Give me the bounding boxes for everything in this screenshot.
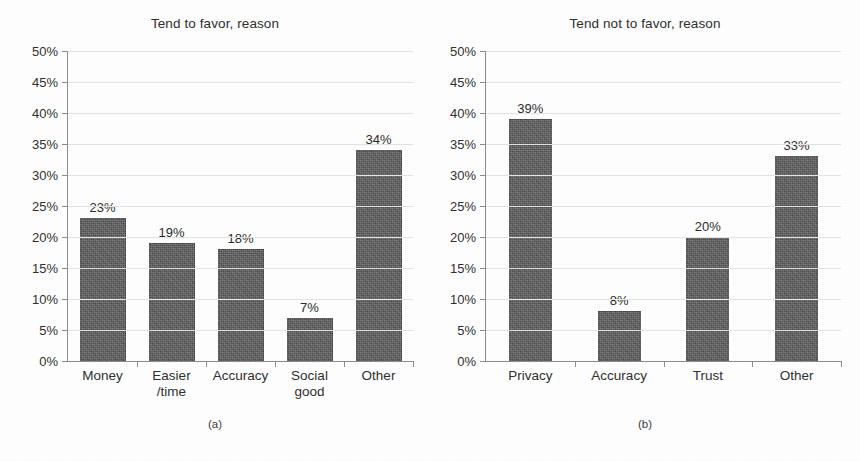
gridline <box>68 299 413 300</box>
x-axis-category-label: Privacy <box>486 368 575 384</box>
x-axis-tick <box>752 361 753 367</box>
x-axis-labels-b: PrivacyAccuracyTrustOther <box>486 368 841 384</box>
subcaption-a: (a) <box>0 418 430 430</box>
bar-value-label: 23% <box>89 200 115 215</box>
bar-value-label: 8% <box>610 293 629 308</box>
x-axis-category-label: Easier /time <box>137 368 206 400</box>
x-axis-tick <box>575 361 576 367</box>
gridline <box>486 299 841 300</box>
y-axis-tick <box>62 113 68 114</box>
y-axis-tick-label: 40% <box>450 106 476 121</box>
x-axis-category-label: Other <box>752 368 841 384</box>
gridline <box>68 330 413 331</box>
two-panel-bar-figure: Tend to favor, reason 23%19%18%7%34% 50%… <box>0 0 860 461</box>
y-axis-tick <box>62 299 68 300</box>
y-axis-tick-label: 40% <box>32 106 58 121</box>
y-axis-tick-label: 15% <box>450 261 476 276</box>
y-axis-tick <box>480 330 486 331</box>
y-axis-tick <box>480 237 486 238</box>
y-axis-tick <box>62 268 68 269</box>
bar <box>149 243 195 361</box>
gridline <box>68 51 413 52</box>
gridline <box>486 268 841 269</box>
gridline <box>486 206 841 207</box>
bar-value-label: 20% <box>695 219 721 234</box>
x-axis-tick <box>841 361 842 367</box>
y-axis-tick-label: 50% <box>450 44 476 59</box>
y-axis-tick <box>480 175 486 176</box>
y-axis-tick <box>62 175 68 176</box>
bar <box>80 218 126 361</box>
chart-panel-a: Tend to favor, reason 23%19%18%7%34% 50%… <box>0 0 430 461</box>
y-axis-tick-label: 30% <box>450 168 476 183</box>
x-axis-category-label: Trust <box>664 368 753 384</box>
gridline <box>486 113 841 114</box>
y-axis-tick <box>480 361 486 362</box>
y-axis-tick <box>62 237 68 238</box>
y-axis-tick <box>62 206 68 207</box>
y-axis-tick-label: 5% <box>39 323 58 338</box>
y-axis-tick <box>62 51 68 52</box>
y-axis-tick <box>480 113 486 114</box>
y-axis-tick <box>480 299 486 300</box>
bar <box>218 249 264 361</box>
y-axis-tick-label: 25% <box>450 199 476 214</box>
y-axis-tick-label: 30% <box>32 168 58 183</box>
y-axis-tick-label: 35% <box>450 137 476 152</box>
bar <box>598 311 641 361</box>
gridline <box>68 237 413 238</box>
y-axis-tick <box>480 144 486 145</box>
y-axis-tick <box>480 268 486 269</box>
y-axis-tick-label: 45% <box>32 75 58 90</box>
gridline <box>486 330 841 331</box>
y-axis-tick-label: 50% <box>32 44 58 59</box>
y-axis-tick <box>62 330 68 331</box>
gridline <box>68 144 413 145</box>
y-axis-tick-label: 0% <box>457 354 476 369</box>
x-axis-tick <box>344 361 345 367</box>
y-axis-tick-label: 0% <box>39 354 58 369</box>
y-axis-tick <box>480 206 486 207</box>
subcaption-b: (b) <box>430 418 860 430</box>
bar-value-label: 33% <box>784 138 810 153</box>
chart-panel-b: Tend not to favor, reason 39%8%20%33% 50… <box>430 0 860 461</box>
x-axis-category-label: Accuracy <box>575 368 664 384</box>
x-axis-category-label: Other <box>344 368 413 400</box>
gridline <box>486 51 841 52</box>
gridline <box>68 113 413 114</box>
x-axis-tick <box>275 361 276 367</box>
gridline <box>68 175 413 176</box>
y-axis-tick-label: 5% <box>457 323 476 338</box>
y-axis-tick <box>480 51 486 52</box>
x-axis-tick <box>664 361 665 367</box>
y-axis-tick <box>62 82 68 83</box>
gridline <box>486 175 841 176</box>
bar-value-label: 7% <box>300 300 319 315</box>
chart-title-b: Tend not to favor, reason <box>430 16 860 31</box>
gridline <box>486 144 841 145</box>
y-axis-tick-label: 35% <box>32 137 58 152</box>
x-axis-tick <box>206 361 207 367</box>
gridline <box>68 206 413 207</box>
gridline <box>486 237 841 238</box>
x-axis-tick <box>413 361 414 367</box>
gridline <box>68 82 413 83</box>
bar <box>509 119 552 361</box>
y-axis-tick-label: 15% <box>32 261 58 276</box>
x-axis-tick <box>137 361 138 367</box>
x-axis-labels-a: MoneyEasier /timeAccuracySocial goodOthe… <box>68 368 413 400</box>
x-axis-category-label: Money <box>68 368 137 400</box>
chart-title-a: Tend to favor, reason <box>0 16 430 31</box>
gridline <box>486 82 841 83</box>
bar <box>287 318 333 361</box>
plot-area-a: 23%19%18%7%34% 50%45%40%35%30%25%20%15%1… <box>68 51 413 361</box>
y-axis-tick <box>62 361 68 362</box>
y-axis-tick <box>480 82 486 83</box>
x-axis-category-label: Social good <box>275 368 344 400</box>
y-axis-tick-label: 25% <box>32 199 58 214</box>
gridline <box>68 268 413 269</box>
y-axis-tick-label: 20% <box>450 230 476 245</box>
y-axis-tick-label: 20% <box>32 230 58 245</box>
bar-value-label: 18% <box>227 231 253 246</box>
y-axis-tick <box>62 144 68 145</box>
